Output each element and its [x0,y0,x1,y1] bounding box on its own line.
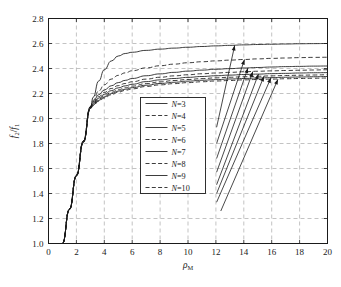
x-tick-label: 10 [184,247,194,257]
x-tick-label: 16 [267,247,277,257]
legend-label: N=3 [171,100,186,109]
legend-label: N=8 [171,160,186,169]
x-tick-label: 20 [323,247,333,257]
y-tick-label: 1.0 [32,239,44,249]
y-tick-label: 2.6 [32,39,44,49]
x-tick-label: 6 [130,247,135,257]
annotation-arrows [217,45,278,211]
y-tick-label: 2.0 [32,114,44,124]
y-tick-label: 2.2 [32,89,43,99]
y-tick-label: 1.2 [32,214,43,224]
legend-label: N=9 [171,172,186,181]
legend-label: N=7 [171,148,186,157]
legend-label: N=6 [171,136,186,145]
arrow-to-N4 [217,60,245,144]
legend: N=3N=4N=5N=6N=7N=8N=9N=10 [141,98,206,194]
arrow-to-N7 [217,74,259,185]
arrow-to-N6 [217,72,253,173]
y-tick-label: 2.4 [32,64,44,74]
y-tick-label: 1.6 [32,164,44,174]
figure-container: 024681012141618201.01.21.41.61.82.02.22.… [0,0,341,287]
x-tick-label: 12 [211,247,220,257]
line-chart: 024681012141618201.01.21.41.61.82.02.22.… [0,0,341,287]
y-tick-label: 1.8 [32,139,44,149]
x-tick-label: 0 [46,247,51,257]
y-tick-label: 2.8 [32,14,44,24]
x-tick-label: 8 [158,247,163,257]
x-tick-label: 4 [102,247,107,257]
x-tick-label: 18 [295,247,305,257]
y-tick-label: 1.4 [32,189,44,199]
x-tick-label: 2 [74,247,79,257]
x-tick-label: 14 [239,247,249,257]
legend-label: N=5 [171,124,186,133]
y-axis-label: f2/f1 [9,124,20,138]
legend-label: N=10 [171,184,190,193]
legend-label: N=4 [171,112,186,121]
x-axis-label: ρM [182,260,194,271]
